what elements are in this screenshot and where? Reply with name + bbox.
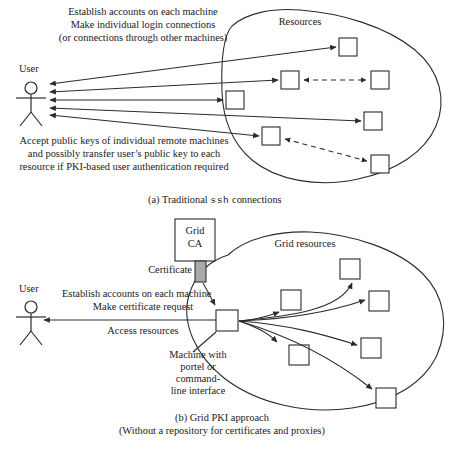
grid-resource-box-b5 — [289, 345, 309, 365]
grid-resource-box-b1 — [340, 259, 360, 279]
grid-resource-box-b6 — [376, 388, 396, 408]
user-note-line-2: Make certificate request — [93, 301, 193, 312]
panel-a-caption-mono: ssh — [210, 195, 229, 206]
resources-cloud-label: Resources — [279, 16, 322, 27]
resource-box-a1 — [339, 38, 357, 56]
machine-note-line-3: command- — [176, 373, 221, 384]
bottom-note-line-2: and possibly transfer user’s public key … — [28, 148, 221, 159]
grid-ca-label-line2: CA — [188, 238, 203, 249]
machine-note-line-4: line interface — [171, 385, 226, 396]
resource-box-a6 — [262, 127, 280, 145]
certificate-label: Certificate — [148, 264, 192, 275]
user-figure-a — [16, 82, 46, 126]
access-resources-note: Access resources — [107, 325, 178, 336]
connection-a-2 — [50, 80, 278, 92]
bottom-note-line-1: Accept public keys of individual remote … — [20, 135, 229, 146]
resources-cloud-outline — [222, 10, 441, 183]
panel-a-caption-suffix: connections — [229, 194, 281, 205]
panel-b-group: Grid CA Certificate User — [16, 219, 444, 437]
machine-portal-box — [216, 310, 238, 331]
diagram-canvas: User Resources Establish accounts on eac… — [0, 0, 449, 454]
top-note-line-3: (or connections through other machines) — [59, 32, 228, 44]
user-label-a: User — [19, 63, 39, 74]
user-label-b: User — [19, 283, 39, 294]
user-figure-b — [16, 301, 46, 345]
resource-box-a3 — [371, 71, 389, 89]
panel-a-group: User Resources Establish accounts on eac… — [16, 6, 441, 206]
figure-grid-pki-diagram: User Resources Establish accounts on eac… — [0, 0, 449, 454]
resource-box-a7 — [371, 155, 389, 173]
grid-resource-box-b3 — [281, 290, 301, 310]
connection-a-4 — [50, 108, 361, 121]
certificate-icon — [195, 261, 206, 282]
panel-b-caption: (b) Grid PKI approach — [175, 412, 270, 424]
top-note-line-2: Make individual login connections — [71, 19, 216, 30]
machine-note-line-2: portel or — [180, 361, 216, 372]
grid-resources-cloud-label: Grid resources — [275, 238, 336, 249]
panel-a-caption: (a) Traditional ssh connections — [148, 194, 282, 206]
grid-resource-box-b4 — [361, 338, 381, 358]
panel-a-caption-prefix: (a) Traditional — [148, 194, 210, 206]
top-note-line-1: Establish accounts on each machine — [68, 6, 218, 17]
grid-resource-box-b2 — [369, 291, 389, 311]
resource-box-a5 — [364, 112, 382, 130]
resource-box-a2 — [281, 71, 299, 89]
bottom-note-line-3: resource if PKI-based user authenticatio… — [19, 161, 229, 172]
dashed-connection-a-2 — [285, 139, 367, 161]
grid-arrow-b4 — [239, 321, 357, 345]
machine-note-line-1: Machine with — [169, 349, 227, 360]
panel-b-caption-sub: (Without a repository for certificates a… — [119, 425, 325, 437]
resource-box-a4 — [226, 91, 244, 109]
grid-ca-label-line1: Grid — [185, 225, 205, 236]
user-note-line-1: Establish accounts on each machine — [62, 288, 212, 299]
